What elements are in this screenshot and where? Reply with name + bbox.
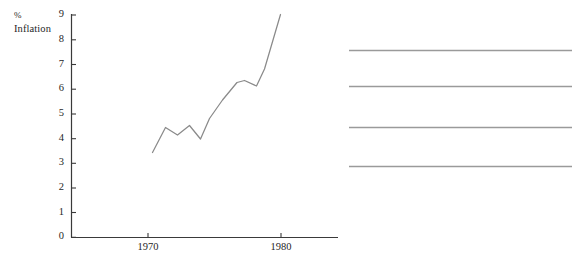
y-tick-label-1: 1	[48, 206, 64, 217]
x-tick-label-1980: 1980	[259, 241, 303, 252]
axes-group	[71, 14, 338, 238]
inflation-line-chart-figure: % Inflation	[0, 0, 588, 269]
y-tick-label-0: 0	[48, 230, 64, 241]
y-tick-label-6: 6	[48, 82, 64, 93]
y-tick-label-9: 9	[48, 8, 64, 19]
x-tick-label-1970: 1970	[126, 241, 170, 252]
inflation-series-line	[153, 15, 281, 153]
y-tick-label-2: 2	[48, 181, 64, 192]
chart-canvas	[0, 0, 588, 269]
y-tick-label-7: 7	[48, 58, 64, 69]
y-tick-label-4: 4	[48, 132, 64, 143]
horizontal-rules-group	[349, 51, 572, 167]
y-tick-label-8: 8	[48, 33, 64, 44]
y-tick-label-3: 3	[48, 156, 64, 167]
y-axis-ticks	[72, 15, 77, 237]
y-tick-label-5: 5	[48, 107, 64, 118]
x-axis-ticks	[148, 233, 281, 238]
